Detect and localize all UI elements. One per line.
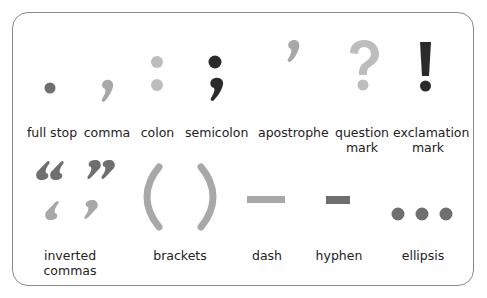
label-brackets: brackets [150,248,210,263]
inverted-commas-icon [32,158,122,228]
label-comma: comma [82,125,132,140]
label-dash: dash [247,248,287,263]
exclamation-mark-icon [418,42,434,94]
semicolon-icon [207,55,227,105]
label-exclamation-mark: exclamation mark [393,125,463,155]
label-semicolon: semicolon [185,125,245,140]
ellipsis-icon [391,207,457,223]
label-apostrophe: apostrophe [258,125,328,140]
full-stop-icon [44,82,58,96]
colon-icon [150,55,166,95]
label-colon: colon [135,125,180,140]
label-ellipsis: ellipsis [395,248,451,263]
label-hyphen: hyphen [314,248,364,263]
dash-icon [247,196,287,206]
brackets-icon [146,165,216,230]
hyphen-icon [326,196,352,206]
question-mark-icon [347,40,383,94]
label-inverted-commas: inverted commas [40,248,100,278]
apostrophe-icon [285,40,301,66]
label-question-mark: question mark [332,125,392,155]
label-full-stop: full stop [22,125,82,140]
comma-icon [100,80,120,106]
